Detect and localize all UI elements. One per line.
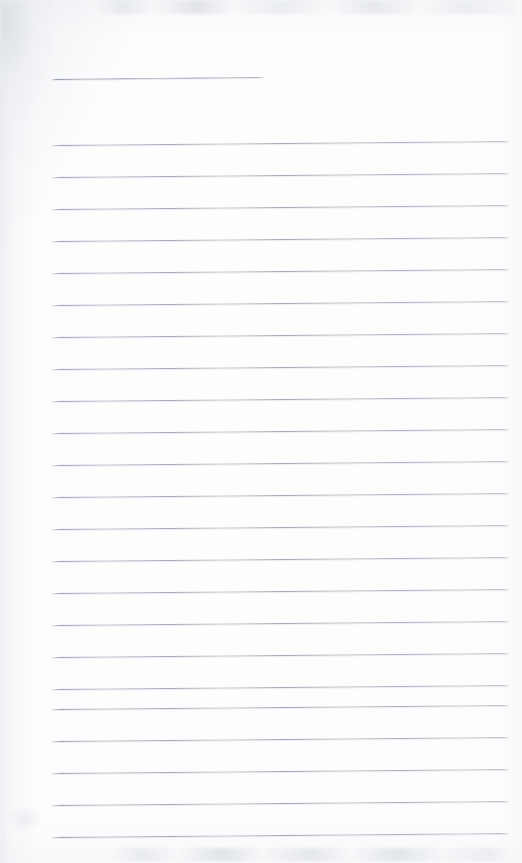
scanned-page [0, 0, 522, 863]
